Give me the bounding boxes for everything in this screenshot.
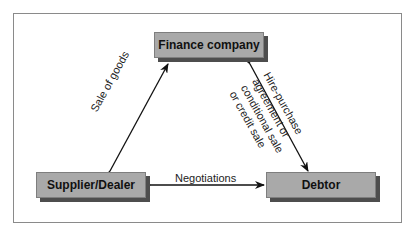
arrow-sale-of-goods — [110, 64, 168, 171]
node-finance-label: Finance company — [158, 38, 259, 52]
node-debtor-label: Debtor — [302, 178, 341, 192]
node-debtor: Debtor — [266, 172, 376, 198]
edge-label-negotiations: Negotiations — [175, 172, 236, 184]
node-finance-company: Finance company — [154, 32, 264, 58]
node-supplier-label: Supplier/Dealer — [47, 178, 135, 192]
node-supplier-dealer: Supplier/Dealer — [36, 172, 146, 198]
